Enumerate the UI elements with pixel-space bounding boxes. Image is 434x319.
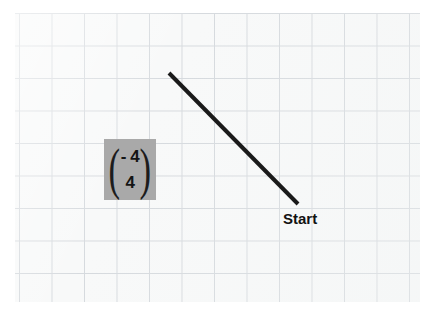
open-paren-icon: ( [109, 148, 121, 192]
start-label: Start [283, 210, 317, 227]
vector-component-y: 4 [126, 174, 135, 191]
translation-line [169, 73, 298, 204]
close-paren-icon: ) [140, 148, 152, 192]
matrix-group: ( - 4 4 ) [105, 148, 155, 192]
column-vector-notation: ( - 4 4 ) [104, 139, 156, 200]
vector-component-x: - 4 [121, 148, 139, 165]
matrix-column: - 4 4 [121, 148, 139, 191]
figure-canvas: ( - 4 4 ) Start [0, 0, 434, 319]
vector-line-layer [0, 0, 434, 319]
